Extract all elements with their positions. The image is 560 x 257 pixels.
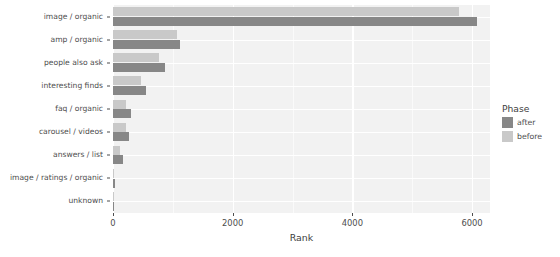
legend: Phase afterbefore [502,104,542,144]
bar-before [113,7,459,16]
gridline-horizontal [113,86,490,87]
bar-before [113,53,159,62]
y-axis-tick [107,155,110,156]
legend-item: after [502,116,542,129]
gridline-horizontal [113,201,490,202]
bar-after [113,202,114,211]
plot-panel [113,5,490,213]
bar-before [113,146,120,155]
bar-after [113,40,180,49]
y-axis-tick [107,85,110,86]
x-axis-tick-label: 0 [110,218,115,228]
x-axis-tick [472,213,473,216]
gridline-horizontal [113,155,490,156]
y-axis-tick [107,39,110,40]
gridline-horizontal [113,63,490,64]
legend-label: after [517,119,535,127]
legend-title: Phase [502,104,542,113]
y-axis-tick-label: people also ask [44,59,103,67]
bar-after [113,17,477,26]
bar-after [113,132,129,141]
legend-label: before [517,133,542,141]
y-axis-tick-label: carousel / videos [39,128,103,136]
y-axis-tick [107,201,110,202]
x-axis-tick [233,213,234,216]
gridline-horizontal [113,178,490,179]
legend-swatch-before [502,131,513,142]
y-axis-tick-label: image / ratings / organic [10,175,103,183]
x-axis-tick [352,213,353,216]
bar-after [113,86,146,95]
legend-item: before [502,130,542,143]
bar-chart: image / organicamp / organicpeople also … [0,0,560,257]
bar-after [113,179,115,188]
x-axis-tick-label: 6000 [461,218,482,228]
gridline-horizontal [113,132,490,133]
bar-before [113,123,126,132]
legend-swatch-after [502,117,513,128]
bar-before [113,100,126,109]
bar-after [113,109,131,118]
bar-before [113,169,114,178]
bar-before [113,76,141,85]
legend-items: afterbefore [502,116,542,143]
bar-after [113,63,165,72]
x-axis-tick-label: 4000 [342,218,363,228]
x-axis-title: Rank [113,232,490,243]
y-axis-tick [107,132,110,133]
y-axis-tick-label: answers / list [53,151,103,159]
y-axis-tick-label: interesting finds [41,82,103,90]
x-axis-tick-label: 2000 [222,218,243,228]
y-axis: image / organicamp / organicpeople also … [0,5,110,213]
bar-before [113,30,177,39]
y-axis-tick [107,62,110,63]
gridline-horizontal [113,109,490,110]
bar-before [113,192,114,201]
x-axis: 0200040006000 [113,213,490,233]
bar-after [113,155,123,164]
y-axis-tick [107,16,110,17]
y-axis-tick [107,178,110,179]
y-axis-tick-label: amp / organic [51,36,103,44]
x-axis-tick [113,213,114,216]
y-axis-tick-label: image / organic [44,13,103,21]
y-axis-tick [107,109,110,110]
y-axis-tick-label: faq / organic [55,105,103,113]
y-axis-tick-label: unknown [68,198,103,206]
